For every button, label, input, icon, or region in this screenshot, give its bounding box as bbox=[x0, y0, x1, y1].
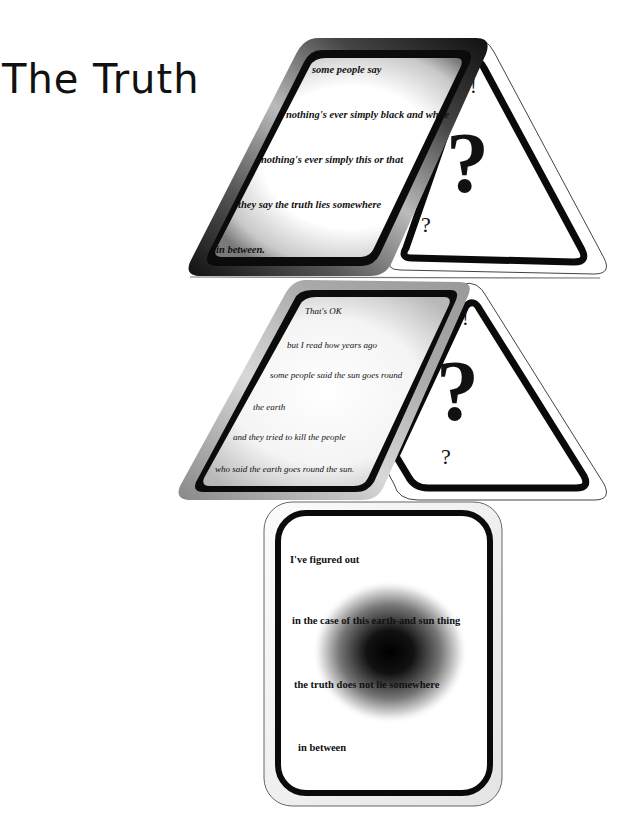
poem-line: who said the earth goes round the sun. bbox=[215, 464, 354, 474]
poem-line: but I read how years ago bbox=[287, 340, 377, 350]
card-house-illustration: ! ? ? some people say nothing's ever sim… bbox=[0, 0, 634, 822]
poem-line: the earth bbox=[253, 402, 286, 412]
question-mark-icon: ? bbox=[436, 343, 479, 439]
poem-line: That's OK bbox=[305, 306, 343, 316]
bottom-poem-card: I've figured out in the case of this ear… bbox=[264, 502, 502, 806]
poem-line: in between bbox=[298, 742, 346, 753]
exclamation-icon: ! bbox=[462, 307, 469, 329]
poem-line: nothing's ever simply this or that bbox=[261, 154, 404, 165]
poem-line: nothing's ever simply black and white bbox=[286, 109, 449, 120]
dark-spot bbox=[312, 580, 468, 724]
poem-line: the truth does not lie somewhere bbox=[294, 679, 440, 690]
question-mark-small-icon: ? bbox=[421, 212, 431, 237]
question-mark-small-icon: ? bbox=[441, 444, 451, 469]
question-mark-icon: ? bbox=[446, 115, 489, 211]
poem-line: I've figured out bbox=[290, 554, 360, 565]
poem-line: in between. bbox=[216, 244, 265, 255]
poem-line: some people said the sun goes round bbox=[270, 370, 403, 380]
poem-line: in the case of this earth-and sun thing bbox=[292, 615, 461, 626]
shelf-divider bbox=[190, 277, 600, 278]
poem-line: some people say bbox=[311, 64, 382, 75]
poem-line: and they tried to kill the people bbox=[233, 432, 345, 442]
poem-line: they say the truth lies somewhere bbox=[238, 199, 382, 210]
